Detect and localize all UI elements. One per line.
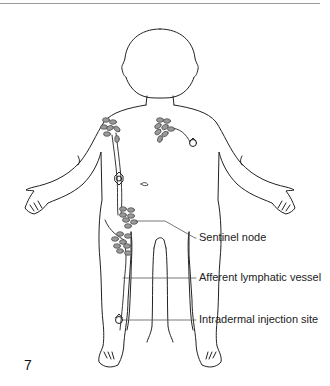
femoral-nodes-icon bbox=[112, 232, 132, 256]
axillary-nodes-right-icon bbox=[154, 118, 175, 143]
axillary-nodes-left-icon bbox=[101, 118, 122, 143]
head-outline bbox=[122, 29, 198, 98]
label-afferent-lymphatic-vessel: Afferent lymphatic vessel bbox=[199, 271, 321, 283]
figure-number: 7 bbox=[24, 357, 32, 373]
navel bbox=[141, 183, 148, 186]
leader-sentinel-node bbox=[136, 221, 196, 238]
label-intradermal-injection-site: Intradermal injection site bbox=[199, 313, 318, 325]
body-diagram bbox=[0, 0, 330, 386]
inguinal-nodes-icon bbox=[120, 207, 138, 229]
label-sentinel-node: Sentinel node bbox=[199, 231, 266, 243]
